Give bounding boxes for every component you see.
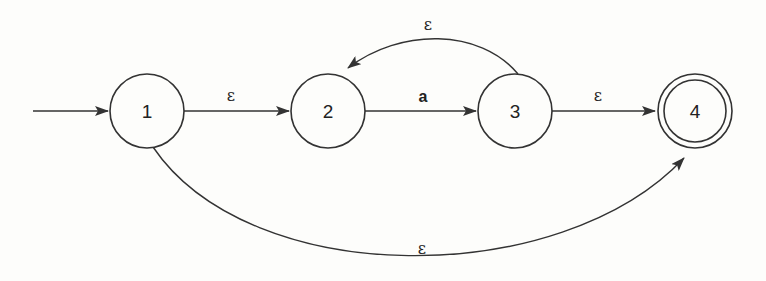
nfa-diagram: ε a ε ε ε 1 2 3 4	[0, 0, 766, 281]
edge-2-3-label: a	[419, 88, 428, 105]
state-1: 1	[110, 74, 184, 148]
edge-1-2-label: ε	[227, 86, 235, 105]
state-4-label: 4	[690, 101, 701, 122]
state-3: 3	[478, 74, 552, 148]
state-3-label: 3	[510, 101, 521, 122]
state-2: 2	[291, 74, 365, 148]
edge-3-4-label: ε	[594, 86, 602, 105]
state-2-label: 2	[323, 101, 334, 122]
edge-3-2-label: ε	[424, 15, 432, 34]
edge-1-4-label: ε	[418, 239, 426, 258]
state-4-accept: 4	[658, 74, 732, 148]
state-1-label: 1	[142, 101, 153, 122]
edge-3-2	[348, 39, 518, 74]
